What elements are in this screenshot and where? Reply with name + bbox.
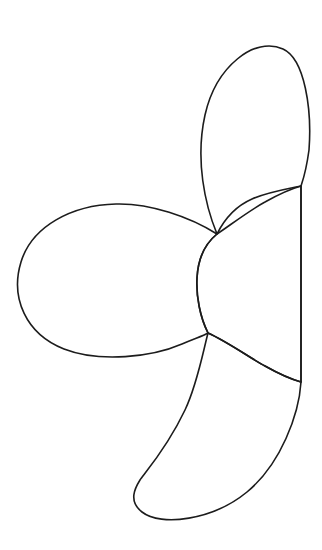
petal-rosette-drawing (0, 0, 322, 550)
figure-canvas: Three-lobed petal rosette outline Black … (0, 0, 322, 550)
canvas-background (0, 0, 322, 550)
